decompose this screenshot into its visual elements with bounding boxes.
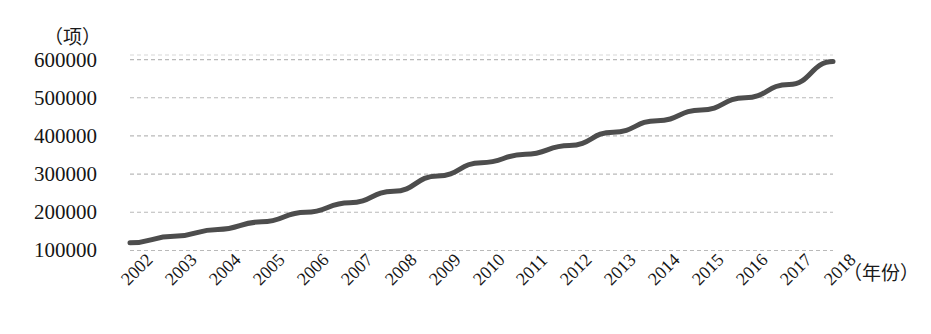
plot-area [130, 55, 833, 265]
data-line-series [130, 55, 833, 265]
chart-figure: （项） （年份） 6000005000004000003000002000001… [0, 0, 931, 334]
y-axis-tick-label: 300000 [34, 162, 122, 187]
y-axis-tick-label: 200000 [34, 200, 122, 225]
y-axis-unit-label: （项） [44, 22, 101, 49]
y-axis-tick-label: 400000 [34, 123, 122, 148]
y-axis-tick-label: 500000 [34, 85, 122, 110]
y-axis-tick-label: 100000 [34, 238, 122, 263]
x-axis-unit-label: （年份） [843, 258, 919, 285]
y-axis-tick-label: 600000 [34, 47, 122, 72]
